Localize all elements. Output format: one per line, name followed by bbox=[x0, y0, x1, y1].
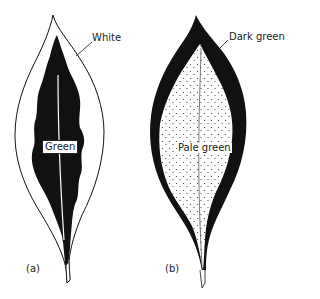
label-dark-green: Dark green bbox=[229, 32, 285, 42]
leaf-b-stem bbox=[200, 270, 205, 288]
leaf-a-white-pointer bbox=[76, 42, 92, 56]
label-pale-green: Pale green bbox=[177, 143, 232, 153]
caption-b: (b) bbox=[165, 264, 179, 274]
label-white: White bbox=[92, 33, 121, 43]
label-green: Green bbox=[42, 140, 78, 154]
caption-a: (a) bbox=[26, 264, 40, 274]
